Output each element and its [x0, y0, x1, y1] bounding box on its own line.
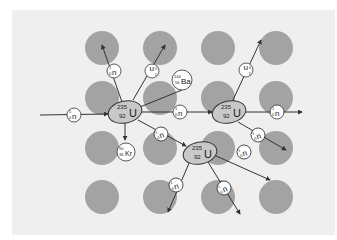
svg-text:92: 92: [194, 154, 201, 160]
neutron: 1 0 n: [235, 143, 253, 161]
svg-text:235: 235: [221, 104, 232, 110]
svg-text:235: 235: [117, 104, 128, 110]
target-nucleus: [143, 31, 177, 65]
svg-text:n: n: [72, 112, 76, 121]
svg-text:92: 92: [223, 113, 230, 119]
neutron: 1 0 n: [239, 63, 253, 77]
neutron: 1 0 n: [270, 105, 284, 119]
fission-diagram: 235 92 U 235 92 U 235 92 U 1 0 n 1 0 n 1…: [0, 0, 337, 240]
svg-text:36: 36: [119, 152, 124, 157]
krypton-fragment: 90 36 Kr: [117, 143, 135, 161]
target-nucleus: [201, 31, 235, 65]
neutron: 1 0 n: [107, 64, 121, 78]
svg-text:n: n: [244, 64, 248, 73]
neutron: 1 0 n: [145, 64, 159, 78]
svg-text:92: 92: [119, 113, 126, 119]
svg-text:n: n: [275, 109, 279, 118]
svg-text:90: 90: [119, 146, 124, 151]
neutron: 1 0 n: [173, 105, 187, 119]
target-nucleus: [85, 131, 119, 165]
svg-text:Kr: Kr: [125, 150, 133, 157]
target-nucleus: [85, 31, 119, 65]
neutron: 1 0 n: [67, 108, 81, 122]
target-nucleus: [259, 31, 293, 65]
target-nucleus: [85, 180, 119, 214]
svg-text:n: n: [150, 65, 154, 74]
svg-text:Ba: Ba: [181, 77, 191, 86]
svg-text:n: n: [178, 109, 182, 118]
barium-fragment: 144 56 Ba: [172, 70, 192, 90]
svg-text:56: 56: [175, 80, 180, 85]
target-nucleus: [143, 81, 177, 115]
svg-text:235: 235: [192, 145, 203, 151]
svg-text:n: n: [112, 68, 116, 77]
svg-text:U: U: [129, 107, 137, 119]
svg-text:U: U: [204, 148, 212, 160]
target-nucleus: [259, 180, 293, 214]
svg-text:U: U: [233, 107, 241, 119]
